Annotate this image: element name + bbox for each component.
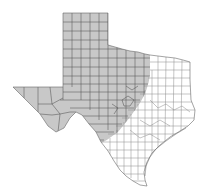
- map-svg: [0, 0, 210, 193]
- texas-county-map: [0, 0, 210, 193]
